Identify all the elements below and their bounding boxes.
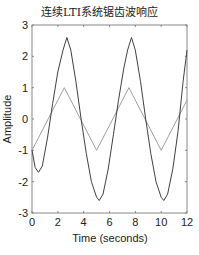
y-tick-label: -3 [18, 207, 28, 219]
line-chart: 024681012-3-2-10123 Time (seconds) Ampli… [0, 0, 199, 255]
y-tick-label: -1 [18, 144, 28, 156]
x-tick-label: 12 [181, 216, 193, 228]
y-tick-label: 1 [22, 82, 28, 94]
x-tick-label: 2 [55, 216, 61, 228]
y-tick-label: -2 [18, 176, 28, 188]
x-axis-label: Time (seconds) [72, 232, 147, 244]
x-tick-label: 8 [132, 216, 138, 228]
y-tick-label: 2 [22, 50, 28, 62]
x-tick-label: 10 [155, 216, 167, 228]
y-axis-label: Amplitude [1, 95, 13, 144]
y-tick-label: 3 [22, 19, 28, 31]
y-tick-label: 0 [22, 113, 28, 125]
x-tick-label: 4 [81, 216, 87, 228]
x-tick-label: 6 [106, 216, 112, 228]
x-tick-label: 0 [29, 216, 35, 228]
plot-area [32, 25, 187, 213]
